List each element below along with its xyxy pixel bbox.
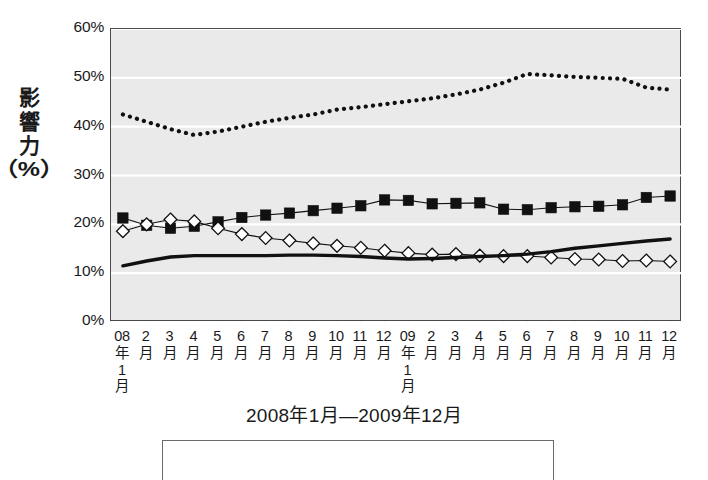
y-axis-tick-label: 50%: [50, 67, 104, 85]
open-diamond-series-marker: [116, 225, 129, 238]
y-axis-tick-label: 60%: [50, 18, 104, 36]
open-diamond-series-marker: [331, 239, 344, 252]
filled-square-series-marker: [665, 191, 675, 201]
filled-square-series-marker: [427, 199, 437, 209]
filled-square-series-marker: [379, 195, 389, 205]
open-diamond-series-marker: [283, 234, 296, 247]
open-diamond-series-marker: [235, 228, 248, 241]
y-axis-tick-label: 20%: [50, 213, 104, 231]
open-diamond-series-marker: [378, 244, 391, 257]
filled-square-series-marker: [641, 192, 651, 202]
filled-square-series-marker: [237, 212, 247, 222]
filled-square-series-marker: [546, 203, 556, 213]
y-axis-tick-label: 40%: [50, 116, 104, 134]
legend-box: [162, 440, 554, 480]
filled-square-series-marker: [332, 203, 342, 213]
y-axis-tick-label: 10%: [50, 262, 104, 280]
open-diamond-series-marker: [354, 241, 367, 254]
open-diamond-series-marker: [616, 255, 629, 268]
open-diamond-series-marker: [569, 253, 582, 266]
open-diamond-series-marker: [664, 255, 677, 268]
x-axis-title: 2008年1月—2009年12月: [0, 400, 708, 427]
open-diamond-series-marker: [640, 254, 653, 267]
plot-svg: [111, 29, 682, 322]
filled-square-series-marker: [475, 198, 485, 208]
filled-square-series-marker: [522, 204, 532, 214]
plot-area: [110, 28, 681, 321]
open-diamond-series-marker: [307, 237, 320, 250]
open-diamond-series-marker: [592, 253, 605, 266]
filled-square-series-marker: [617, 200, 627, 210]
filled-square-series-marker: [451, 198, 461, 208]
filled-square-series-marker: [308, 205, 318, 215]
filled-square-series-marker: [570, 202, 580, 212]
filled-square-series-marker: [260, 210, 270, 220]
filled-square-series-marker: [594, 201, 604, 211]
y-axis-title-char-3: 力: [19, 134, 40, 158]
filled-square-series-marker: [284, 208, 294, 218]
y-axis-title-char-1: 影: [19, 86, 40, 110]
y-axis-tick-label: 0%: [50, 311, 104, 329]
y-axis-title-char-2: 響: [19, 110, 40, 134]
filled-square-series-marker: [118, 213, 128, 223]
y-axis-tick-label: 30%: [50, 165, 104, 183]
filled-square-series-marker: [403, 195, 413, 205]
filled-square-series-marker: [498, 204, 508, 214]
filled-square-series-marker: [356, 201, 366, 211]
y-axis-tick-labels: 60%50%40%30%20%10%0%: [46, 0, 104, 454]
x-axis-tick-label: 12月: [654, 328, 684, 362]
open-diamond-series-marker: [259, 232, 272, 245]
